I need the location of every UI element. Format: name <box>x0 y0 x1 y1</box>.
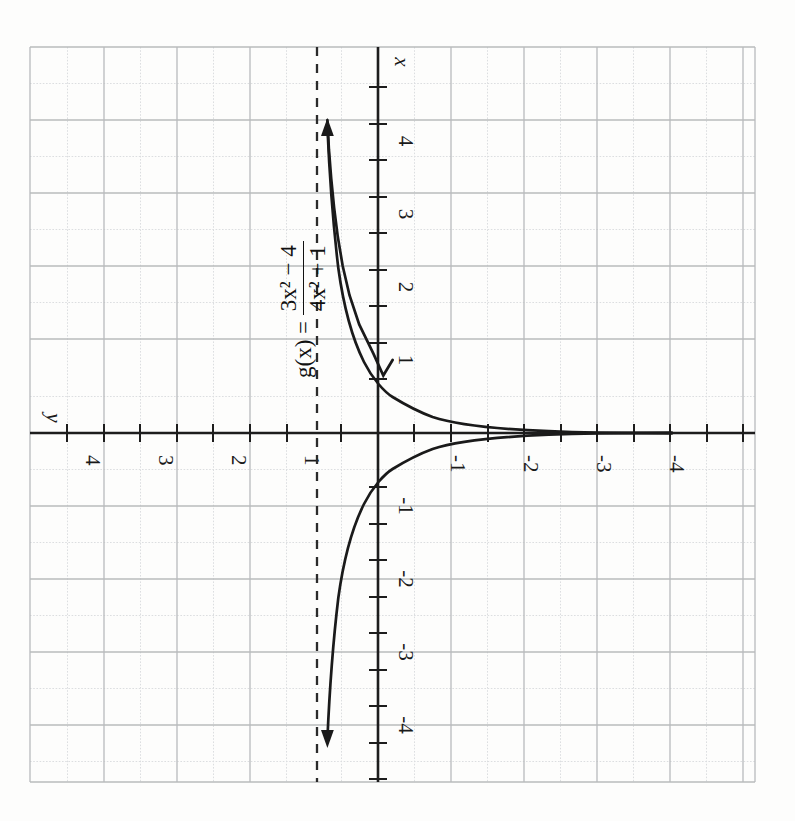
x-tick-label-neg3: -3 <box>394 643 418 661</box>
formula-numerator: 3x² − 4 <box>276 241 303 315</box>
formula-fraction: 3x² − 4 4x² + 1 <box>276 241 332 315</box>
y-tick-label-neg4: -4 <box>665 455 689 473</box>
y-tick-label-3: 3 <box>154 455 178 466</box>
y-tick-label-2: 2 <box>227 455 251 466</box>
function-formula: g(x) = 3x² − 4 4x² + 1 <box>276 241 332 378</box>
formula-denominator: 4x² + 1 <box>303 241 331 315</box>
y-tick-label-neg1: -1 <box>446 455 470 473</box>
paper-background <box>0 0 795 821</box>
y-tick-label-neg2: -2 <box>519 455 543 473</box>
y-tick-label-neg3: -3 <box>592 455 616 473</box>
plot-svg: 1 2 3 4 -1 -2 -3 -4 1 2 3 4 -1 -2 -3 -4 … <box>0 0 795 821</box>
x-tick-label-neg4: -4 <box>394 716 418 734</box>
x-tick-label-neg1: -1 <box>394 497 418 515</box>
x-axis-label: x <box>390 56 414 67</box>
x-tick-label-4: 4 <box>394 136 418 147</box>
x-tick-label-1: 1 <box>394 355 418 366</box>
figure-canvas: 1 2 3 4 -1 -2 -3 -4 1 2 3 4 -1 -2 -3 -4 … <box>0 0 795 821</box>
y-tick-label-4: 4 <box>81 455 105 466</box>
x-tick-label-neg2: -2 <box>394 570 418 588</box>
x-tick-label-2: 2 <box>394 282 418 293</box>
x-tick-label-3: 3 <box>394 209 418 220</box>
y-tick-label-1: 1 <box>300 455 324 466</box>
y-axis-label: y <box>42 411 66 423</box>
formula-lhs: g(x) = <box>291 321 317 378</box>
